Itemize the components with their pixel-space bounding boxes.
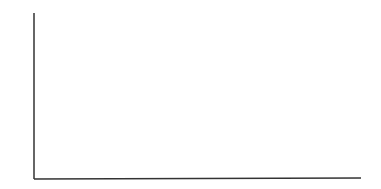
- x-axis: [34, 178, 361, 179]
- stem-chart: [0, 0, 381, 189]
